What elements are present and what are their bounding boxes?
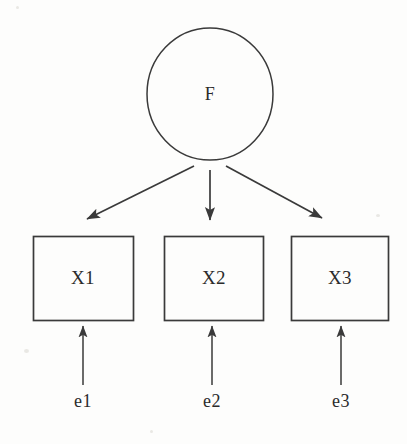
error-label-e3: e3 <box>316 391 366 412</box>
error-label-e1: e1 <box>58 391 108 412</box>
indicator-label-x3: X3 <box>310 267 370 289</box>
indicator-label-x2: X2 <box>184 267 244 289</box>
latent-factor-label: F <box>190 84 230 105</box>
path-diagram-figure: F X1 X2 X3 e1 e2 e3 <box>0 0 407 444</box>
path-arrow-f-to-x3 <box>226 166 322 218</box>
diagram-canvas <box>0 0 407 444</box>
indicator-label-x1: X1 <box>53 267 113 289</box>
path-arrow-f-to-x1 <box>87 166 194 219</box>
error-label-e2: e2 <box>187 391 237 412</box>
